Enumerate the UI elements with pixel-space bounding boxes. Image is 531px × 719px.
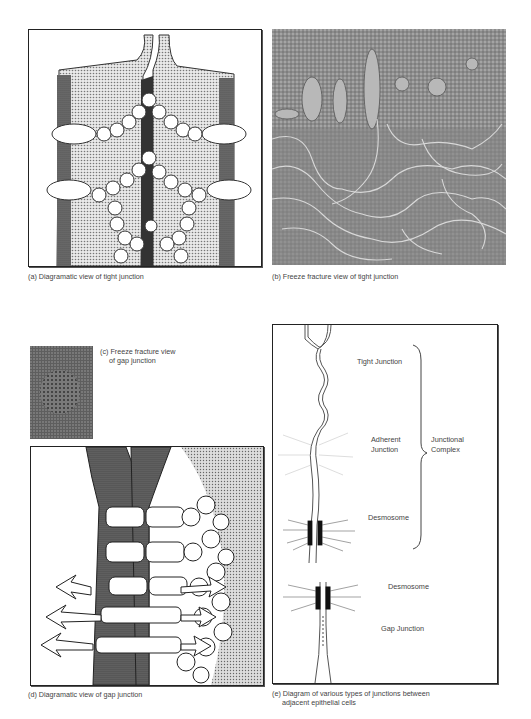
panel-e-junction-types-diagram: Tight Junction Adherent Junction Junctio… [272, 324, 498, 684]
freeze-fracture-micrograph [272, 29, 506, 265]
label-gap-junction: Gap Junction [381, 624, 424, 633]
gap-junction-micrograph [30, 346, 93, 439]
label-adherent-line2: Junction [371, 445, 398, 454]
caption-a: (a) Diagramatic view of tight junction [28, 272, 144, 281]
label-desmosome-2: Desmosome [388, 582, 429, 591]
caption-c-line2: of gap junction [109, 356, 156, 365]
label-junctional-complex-line1: Junctional [431, 435, 464, 444]
label-adherent-line1: Adherent [371, 435, 401, 444]
label-tight-junction: Tight Junction [357, 357, 402, 366]
label-desmosome-1: Desmosome [368, 513, 409, 522]
panel-c-gap-junction-photo [30, 346, 93, 439]
panel-a-tight-junction-diagram [28, 29, 262, 267]
gap-junction-illustration [31, 447, 263, 685]
caption-c-line1: (c) Freeze fracture view [100, 347, 176, 356]
panel-d-gap-junction-diagram [30, 446, 264, 686]
panel-b-freeze-fracture-photo [272, 29, 506, 265]
caption-d: (d) Diagramatic view of gap junction [28, 690, 142, 699]
tight-junction-illustration [29, 30, 261, 266]
caption-e-line2: adjacent epithelial cells [282, 698, 356, 707]
caption-e-line1: (e) Diagram of various types of junction… [272, 689, 430, 698]
label-junctional-complex-line2: Complex [431, 445, 460, 454]
caption-b: (b) Freeze fracture view of tight juncti… [272, 272, 398, 281]
